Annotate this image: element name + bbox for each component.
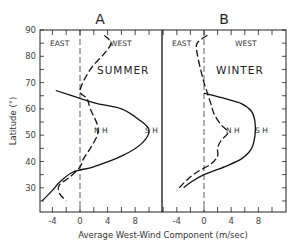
panel-b-sh-label: S H — [255, 126, 268, 135]
panel-b-east-label: EAST — [172, 39, 192, 48]
y-tick-label: 70 — [25, 78, 36, 88]
panel-a-nh-label: N H — [94, 126, 108, 135]
panel-a-title: A — [95, 11, 105, 27]
x-tick-label: 4 — [105, 216, 110, 226]
x-tick-label: 8 — [256, 216, 261, 226]
panel-a-sh-label: S H — [145, 126, 158, 135]
curves — [42, 35, 255, 201]
panel-a-west-label: WEST — [110, 39, 132, 48]
winter-label: WINTER — [216, 64, 264, 76]
y-tick-label: 30 — [25, 183, 36, 193]
x-tick-label: -4 — [48, 216, 56, 226]
series-sh-panel-a — [42, 91, 149, 201]
y-tick-label: 90 — [25, 25, 36, 35]
y-tick-label: 40 — [25, 157, 36, 167]
x-tick-label: 4 — [228, 216, 233, 226]
x-tick-label: 0 — [201, 216, 206, 226]
x-axis-title: Average West-Wind Component (m/sec) — [78, 230, 247, 240]
plot-frame — [40, 30, 286, 212]
panel-b-west-label: WEST — [235, 39, 257, 48]
panel-b-title: B — [219, 11, 229, 27]
y-tick-label: 60 — [25, 104, 36, 114]
summer-label: SUMMER — [97, 64, 149, 76]
x-tick-label: -4 — [173, 216, 181, 226]
y-tick-label: 50 — [25, 130, 36, 140]
y-axis-title: Latitude (°) — [8, 97, 18, 146]
x-tick-label: 8 — [132, 216, 137, 226]
x-tick-label: 0 — [77, 216, 82, 226]
panel-a-east-label: EAST — [50, 39, 70, 48]
chart-figure: 90807060504030-4048-4048 A B EAST WEST E… — [0, 0, 300, 242]
y-tick-label: 80 — [25, 51, 36, 61]
series-nh-panel-b — [177, 35, 228, 190]
